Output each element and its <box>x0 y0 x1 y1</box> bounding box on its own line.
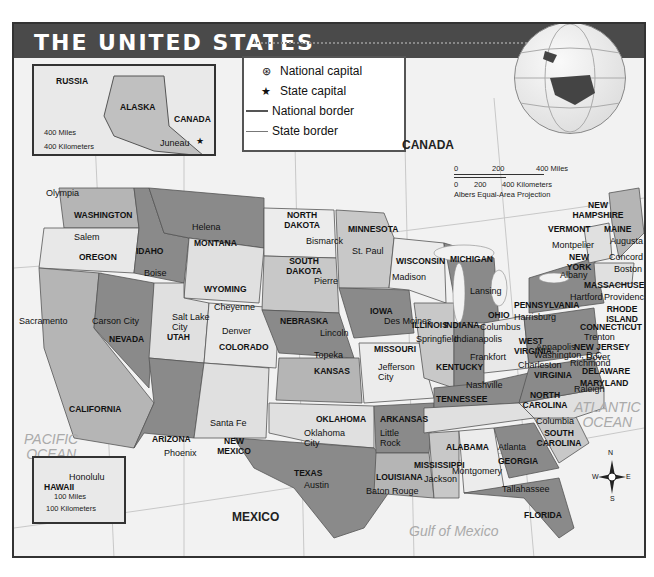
capital-jefferson-city: Jefferson City <box>378 362 423 382</box>
label-south-carolina: SOUTH CAROLINA <box>534 428 584 448</box>
capital-oklahoma-city: Oklahoma City <box>304 428 354 448</box>
label-wisconsin: WISCONSIN <box>396 256 445 266</box>
capital-hartford: Hartford <box>570 292 603 302</box>
capital-harrisburg: Harrisburg <box>514 312 556 322</box>
label-arkansas: ARKANSAS <box>380 414 428 424</box>
map-frame: THE UNITED STATES <box>12 22 646 558</box>
capital-olympia: Olympia <box>46 188 79 198</box>
capital-columbus: Columbus <box>480 322 521 332</box>
label-mexico: MEXICO <box>232 510 279 524</box>
capital-sacramento: Sacramento <box>19 316 68 326</box>
label-wyoming: WYOMING <box>204 284 247 294</box>
capital-salt-lake-city: Salt Lake City <box>172 312 212 332</box>
label-florida: FLORIDA <box>524 510 562 520</box>
capital-star-icon: ★ <box>196 136 204 146</box>
label-canada-inset: CANADA <box>174 114 211 124</box>
title-divider <box>254 42 534 44</box>
national-border-line-icon <box>246 110 268 112</box>
capital-trenton: Trenton <box>584 332 615 342</box>
label-california: CALIFORNIA <box>69 404 121 414</box>
label-arizona: ARIZONA <box>152 434 191 444</box>
state-maine <box>609 188 644 258</box>
label-georgia: GEORGIA <box>498 456 538 466</box>
label-new-mexico: NEW MEXICO <box>214 436 254 456</box>
label-maine: MAINE <box>604 224 631 234</box>
capital-pierre: Pierre <box>314 276 338 286</box>
capital-augusta: Augusta <box>610 236 643 246</box>
label-alabama: ALABAMA <box>446 442 489 452</box>
label-kansas: KANSAS <box>314 366 350 376</box>
globe-us-highlight <box>550 75 595 105</box>
label-missouri: MISSOURI <box>374 344 416 354</box>
label-connecticut: CONNECTICUT <box>580 322 642 332</box>
capital-bismarck: Bismarck <box>306 236 343 246</box>
capital-indianapolis: Indianapolis <box>454 334 502 344</box>
label-honolulu: Honolulu <box>69 472 105 482</box>
label-hawaii: HAWAII <box>44 482 74 492</box>
capital-albany: Albany <box>560 270 588 280</box>
capital-atlanta: Atlanta <box>498 442 526 452</box>
label-indiana: INDIANA <box>444 320 479 330</box>
label-new-york: NEW YORK <box>564 252 594 272</box>
national-capital-washington-dc: Washington, D.C. <box>534 350 604 360</box>
label-washington: WASHINGTON <box>74 210 132 220</box>
label-delaware: DELAWARE <box>582 366 630 376</box>
label-michigan: MICHIGAN <box>450 254 493 264</box>
capital-montgomery: Montgomery <box>452 466 502 476</box>
projection-label: Albers Equal-Area Projection <box>454 190 604 199</box>
label-rhode-island: RHODE ISLAND <box>606 304 638 324</box>
capital-carson-city: Carson City <box>92 316 139 326</box>
capital-springfield: Springfield <box>416 334 459 344</box>
label-texas: TEXAS <box>294 468 322 478</box>
alaska-inset: RUSSIA ALASKA CANADA Juneau ★ 400 Miles … <box>32 64 216 156</box>
label-gulf-of-mexico: Gulf of Mexico <box>409 524 498 539</box>
label-oklahoma: OKLAHOMA <box>316 414 366 424</box>
label-colorado: COLORADO <box>219 342 269 352</box>
globe-graticule <box>515 23 625 133</box>
capital-madison: Madison <box>392 272 426 282</box>
capital-boston: Boston <box>614 264 642 274</box>
label-atlantic-ocean: ATLANTIC OCEAN <box>574 400 641 430</box>
label-ohio: OHIO <box>488 310 510 320</box>
label-russia: RUSSIA <box>56 76 88 86</box>
label-nevada: NEVADA <box>109 334 144 344</box>
capital-phoenix: Phoenix <box>164 448 197 458</box>
label-new-hampshire: NEW HAMPSHIRE <box>568 200 628 220</box>
label-vermont: VERMONT <box>548 224 591 234</box>
legend-state-border: State border <box>246 124 338 138</box>
lake-michigan <box>453 263 465 323</box>
capital-denver: Denver <box>222 326 251 336</box>
capital-little-rock: Little Rock <box>380 428 410 448</box>
label-tennessee: TENNESSEE <box>436 394 488 404</box>
label-illinois: ILLINOIS <box>412 320 448 330</box>
legend-national-capital: ⊛ National capital <box>252 64 362 78</box>
capital-lincoln: Lincoln <box>320 328 349 338</box>
label-utah: UTAH <box>167 332 190 342</box>
capital-frankfort: Frankfort <box>470 352 506 362</box>
label-maryland: MARYLAND <box>580 378 628 388</box>
capital-tallahassee: Tallahassee <box>502 484 550 494</box>
capital-charleston: Charleston <box>518 360 562 370</box>
scale-bar: 0 200 400 Miles 0 200 400 Kilometers Alb… <box>454 164 604 199</box>
capital-salem: Salem <box>74 232 100 242</box>
capital-nashville: Nashville <box>466 380 503 390</box>
capital-lansing: Lansing <box>470 286 502 296</box>
capital-cheyenne: Cheyenne <box>214 302 255 312</box>
map-legend: ⊛ National capital ★ State capital Natio… <box>242 56 406 152</box>
label-oregon: OREGON <box>79 252 117 262</box>
label-juneau: Juneau <box>160 138 190 148</box>
hawaii-inset: Honolulu HAWAII 100 Miles 100 Kilometers <box>32 456 126 524</box>
label-alaska: ALASKA <box>120 102 155 112</box>
label-minnesota: MINNESOTA <box>348 224 398 234</box>
locator-globe <box>514 22 626 134</box>
state-capital-icon: ★ <box>252 85 280 98</box>
label-iowa: IOWA <box>370 306 393 316</box>
capital-helena: Helena <box>192 222 221 232</box>
label-canada: CANADA <box>402 138 454 152</box>
capital-boise: Boise <box>144 268 167 278</box>
label-south-dakota: SOUTH DAKOTA <box>284 256 324 276</box>
label-montana: MONTANA <box>194 238 237 248</box>
capital-montpelier: Montpelier <box>552 240 594 250</box>
capital-baton-rouge: Baton Rouge <box>366 486 419 496</box>
capital-providence: Providence <box>604 292 646 302</box>
